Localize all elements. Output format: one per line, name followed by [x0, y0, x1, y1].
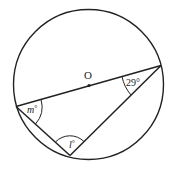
angle-label-m: m°	[27, 104, 37, 115]
angle-label-l: l°	[69, 139, 75, 150]
angle-label-29: 29°	[126, 77, 140, 88]
chord-left	[16, 107, 70, 156]
center-label: O	[84, 69, 92, 81]
circle-diagram: O 29° m° l°	[0, 0, 174, 171]
center-dot	[87, 84, 90, 87]
